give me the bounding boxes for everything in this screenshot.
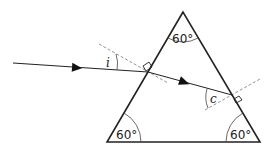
incidence-angle-arc bbox=[116, 54, 118, 70]
apex-angle-label: 60° bbox=[172, 32, 193, 46]
incidence-angle-label: i bbox=[106, 56, 110, 70]
critical-angle-arc bbox=[206, 89, 208, 108]
bottom-right-angle-label: 60° bbox=[230, 128, 251, 142]
refracted-arrow-icon bbox=[178, 76, 191, 87]
bottom-left-angle-label: 60° bbox=[116, 128, 137, 142]
critical-angle-label: c bbox=[210, 92, 217, 106]
prism-diagram: 60° 60° 60° i c bbox=[0, 0, 273, 150]
refracted-ray bbox=[148, 72, 232, 95]
